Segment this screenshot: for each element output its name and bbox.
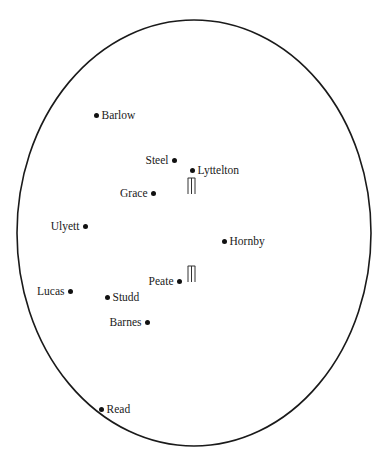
fielder-grace: Grace (120, 186, 155, 200)
fielder-hornby: Hornby (222, 234, 265, 248)
fielder-label: Studd (113, 290, 140, 304)
fielder-label: Peate (149, 274, 174, 288)
fielder-barnes: Barnes (110, 315, 150, 329)
fielder-position-marker (222, 239, 227, 244)
fielder-label: Lucas (37, 284, 64, 298)
fielder-position-marker (145, 320, 150, 325)
cricket-field-diagram (0, 0, 385, 471)
fielder-label: Read (107, 402, 131, 416)
fielder-position-marker (94, 113, 99, 118)
fielder-ulyett: Ulyett (51, 219, 88, 233)
fielder-label: Steel (146, 153, 169, 167)
fielder-label: Grace (120, 186, 147, 200)
fielder-position-marker (68, 289, 73, 294)
fielder-label: Lyttelton (198, 163, 240, 177)
fielder-position-marker (172, 158, 177, 163)
fielder-position-marker (177, 279, 182, 284)
fielder-steel: Steel (146, 153, 177, 167)
fielder-position-marker (99, 407, 104, 412)
fielder-lucas: Lucas (37, 284, 72, 298)
wicket-icon (187, 177, 196, 194)
fielder-label: Hornby (230, 234, 265, 248)
fielder-peate: Peate (149, 274, 182, 288)
fielder-label: Barlow (102, 108, 136, 122)
fielder-studd: Studd (105, 290, 140, 304)
fielder-label: Barnes (110, 315, 142, 329)
fielder-read: Read (99, 402, 131, 416)
fielder-position-marker (151, 191, 156, 196)
fielder-position-marker (190, 168, 195, 173)
wicket-icon (187, 265, 196, 282)
fielder-position-marker (83, 224, 88, 229)
fielder-lyttelton: Lyttelton (190, 163, 240, 177)
fielder-position-marker (105, 295, 110, 300)
fielder-label: Ulyett (51, 219, 80, 233)
field-boundary (17, 20, 371, 446)
fielder-barlow: Barlow (94, 108, 136, 122)
